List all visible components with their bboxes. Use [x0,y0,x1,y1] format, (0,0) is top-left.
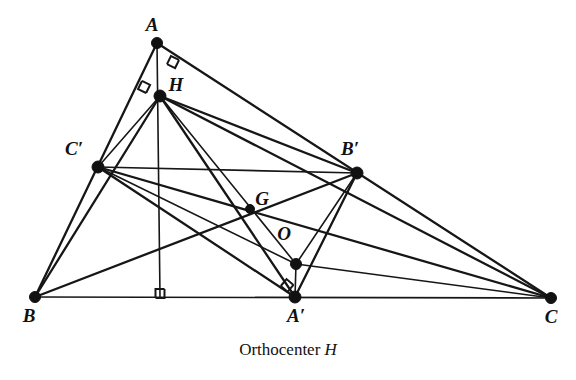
label-H: H [168,74,185,95]
vertex-C [546,293,557,304]
label-B: B [22,305,36,326]
vertex-H [154,90,166,102]
caption-point-letter: H [324,340,339,359]
label-G: G [255,188,269,209]
vertex-Cp [92,161,104,173]
vertex-O [291,259,302,270]
orthocenter-diagram: ABCHGOA′B′C′ Orthocenter H [0,0,576,380]
vertex-A [152,38,163,49]
geometry-canvas: ABCHGOA′B′C′ Orthocenter H [0,0,576,380]
label-O: O [277,223,291,244]
figure-caption: Orthocenter H [239,340,338,359]
label-Cp: C′ [65,138,83,159]
vertex-G [246,205,255,214]
caption-word: Orthocenter [239,340,324,359]
label-Bp: B′ [340,138,359,159]
vertex-Bp [351,167,363,179]
label-Ap: A′ [286,305,305,326]
vertex-B [30,292,41,303]
label-C: C [545,306,558,327]
vertex-Ap [289,291,301,303]
label-A: A [145,14,159,35]
